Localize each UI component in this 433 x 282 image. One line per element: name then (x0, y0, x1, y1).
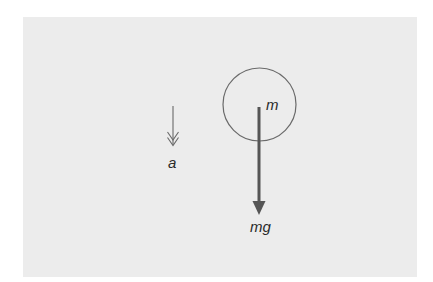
mass-label: m (266, 97, 279, 112)
weight-arrow-icon (253, 107, 266, 215)
free-body-diagram (0, 0, 433, 282)
acceleration-label: a (168, 155, 176, 170)
weight-label: mg (250, 219, 271, 234)
acceleration-arrow-icon (168, 106, 179, 146)
